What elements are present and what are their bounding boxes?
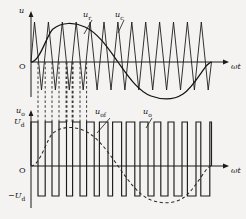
fundamental-wave-label-sub: of bbox=[100, 111, 106, 118]
bottom-plot-y-axis-label: uo bbox=[16, 107, 25, 117]
positive-level-label-sub: d bbox=[21, 121, 25, 128]
negative-level-label-base: −U bbox=[8, 191, 21, 200]
carrier-triangle-wave bbox=[31, 22, 212, 90]
negative-level-label-sub: d bbox=[21, 195, 25, 202]
positive-level-label: Ud bbox=[14, 118, 25, 128]
top-plot-origin-label: O bbox=[19, 63, 26, 71]
tie-lines-group bbox=[38, 62, 87, 122]
reference-wave-label-sub: r bbox=[88, 14, 91, 21]
pwm-output-waveform bbox=[31, 122, 212, 196]
top-plot-x-axis-label: ωt bbox=[231, 63, 241, 71]
top-plot-y-axis-label: u bbox=[19, 7, 24, 15]
carrier-wave-label: uc bbox=[115, 11, 124, 21]
positive-level-label-base: U bbox=[14, 117, 21, 126]
carrier-wave-label-sub: c bbox=[120, 14, 123, 21]
u-c-leader-line bbox=[118, 20, 124, 33]
fundamental-wave-label: uof bbox=[95, 108, 106, 118]
spwm-waveform-figure: u O ωt ur uc uo Ud O −Ud ωt uof uo bbox=[0, 0, 246, 219]
reference-wave-label: ur bbox=[83, 11, 91, 21]
u-o-leader-line bbox=[146, 118, 152, 128]
output-wave-label: uo bbox=[143, 108, 152, 118]
negative-level-label: −Ud bbox=[8, 192, 25, 202]
bottom-plot-x-axis-label: ωt bbox=[231, 167, 241, 175]
bottom-plot-origin-label: O bbox=[19, 167, 26, 175]
bottom-plot-y-axis-label-sub: o bbox=[21, 110, 25, 117]
output-wave-label-sub: o bbox=[148, 111, 152, 118]
figure-canvas bbox=[0, 0, 246, 219]
